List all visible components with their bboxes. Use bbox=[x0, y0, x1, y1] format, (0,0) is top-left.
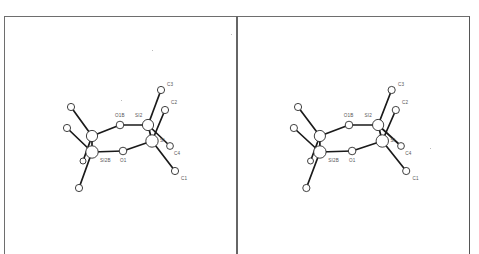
scan-speck bbox=[231, 34, 232, 35]
scan-speck bbox=[121, 100, 122, 101]
atom-ca bbox=[67, 103, 74, 110]
atom-cb bbox=[63, 124, 70, 131]
molecule-right: C3C2O1BSI2SIC4SI2BO1C1 bbox=[238, 17, 469, 254]
atom-label: O1B bbox=[344, 113, 354, 118]
atom-si2 bbox=[373, 119, 384, 130]
molecule-left: C3C2O1BSI2SIC4SI2BO1C1 bbox=[5, 17, 236, 254]
atom-c1 bbox=[171, 167, 178, 174]
atom-label: SI bbox=[160, 138, 165, 143]
atom-cc bbox=[80, 158, 86, 164]
atom-label: O1 bbox=[349, 158, 356, 163]
atom-label: SI2 bbox=[365, 113, 373, 118]
atom-cd bbox=[75, 184, 82, 191]
atom-label: C1 bbox=[181, 176, 188, 181]
atom-cd bbox=[303, 184, 310, 191]
atom-c1 bbox=[403, 167, 410, 174]
atom-c2 bbox=[392, 106, 399, 113]
atom-label: SI2B bbox=[328, 158, 339, 163]
atom-label: SI bbox=[391, 138, 396, 143]
atom-label: SI2B bbox=[100, 158, 111, 163]
atom-o1 bbox=[348, 147, 356, 155]
atom-si1b bbox=[86, 146, 98, 158]
atom-label: C4 bbox=[405, 151, 412, 156]
atom-label: O1B bbox=[115, 113, 125, 118]
scan-speck bbox=[430, 148, 431, 149]
atom-label: O1 bbox=[120, 158, 127, 163]
atom-c4 bbox=[398, 143, 405, 150]
atom-label: C2 bbox=[402, 100, 409, 105]
atom-label: C3 bbox=[398, 82, 405, 87]
atom-si1 bbox=[376, 135, 388, 147]
atom-cb bbox=[290, 124, 297, 131]
atom-c3 bbox=[388, 86, 395, 93]
atom-si_a bbox=[314, 130, 325, 141]
atom-si1b bbox=[314, 146, 326, 158]
atom-cc bbox=[308, 158, 314, 164]
atom-label: C1 bbox=[412, 176, 419, 181]
atom-si1 bbox=[146, 135, 158, 147]
atom-label: C4 bbox=[174, 151, 181, 156]
atom-o1b bbox=[116, 121, 124, 129]
atom-si2 bbox=[142, 119, 153, 130]
atom-label: C2 bbox=[171, 100, 178, 105]
atom-o1b bbox=[345, 121, 353, 129]
atom-ca bbox=[294, 103, 301, 110]
scan-speck bbox=[152, 50, 153, 51]
atom-c2 bbox=[161, 106, 168, 113]
atom-label: C3 bbox=[167, 82, 174, 87]
atom-si_a bbox=[86, 130, 97, 141]
atom-c4 bbox=[167, 143, 174, 150]
stereo-panel-left: C3C2O1BSI2SIC4SI2BO1C1 bbox=[5, 17, 236, 254]
stereo-panel-right: C3C2O1BSI2SIC4SI2BO1C1 bbox=[238, 17, 469, 254]
atom-o1 bbox=[119, 147, 127, 155]
atom-c3 bbox=[157, 86, 164, 93]
atom-label: SI2 bbox=[135, 113, 143, 118]
